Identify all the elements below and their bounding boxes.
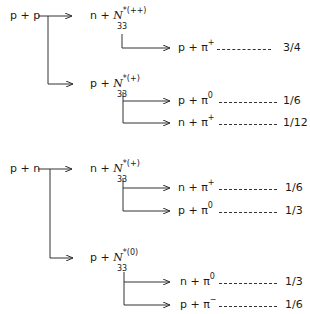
state-sup: *(+) <box>123 74 140 83</box>
pion-charge: 0 <box>208 91 213 100</box>
dashed-leader <box>217 49 271 50</box>
decay-products: p + π0 <box>178 95 213 108</box>
intermediate-state: n + N*(++) 33 <box>90 10 146 23</box>
pion-charge: + <box>208 38 215 47</box>
decay-products: p + π+ <box>178 42 215 55</box>
pion-charge: + <box>208 113 215 122</box>
state-prefix: p + <box>90 77 113 90</box>
decay-products: n + π+ <box>178 117 215 130</box>
decay-products: n + π+ <box>178 182 215 195</box>
products-text: p + π <box>178 41 208 54</box>
decay-products: n + π0 <box>180 276 215 289</box>
intermediate-state: p + N*(+) 33 <box>90 78 140 91</box>
pion-charge: + <box>208 178 215 187</box>
intermediate-state: n + N*(+) 33 <box>90 163 140 176</box>
state-sub: 33 <box>117 89 127 101</box>
products-text: p + π <box>178 204 208 217</box>
pion-charge: − <box>210 295 217 304</box>
branching-fraction: 1/6 <box>285 299 303 311</box>
products-text: p + π <box>180 298 210 311</box>
branching-fraction: 1/12 <box>283 117 308 129</box>
state-sup: *(+) <box>123 159 140 168</box>
products-text: n + π <box>178 181 208 194</box>
diagram-lines <box>0 0 310 314</box>
pion-charge: 0 <box>208 201 213 210</box>
branching-fraction: 1/6 <box>283 95 301 107</box>
dashed-leader <box>219 306 277 307</box>
pion-charge: 0 <box>210 272 215 281</box>
state-prefix: p + <box>90 251 113 264</box>
decay-products: p + π0 <box>178 205 213 218</box>
decay-products: p + π− <box>180 299 217 312</box>
branching-fraction: 1/3 <box>285 205 303 217</box>
state-prefix: n + <box>90 162 113 175</box>
reaction-label: p + n <box>10 163 40 175</box>
dashed-leader <box>219 124 277 125</box>
state-sup: *(0) <box>123 248 138 257</box>
intermediate-state: p + N*(0) 33 <box>90 252 138 265</box>
state-prefix: n + <box>90 9 113 22</box>
dashed-leader <box>219 189 277 190</box>
branching-fraction: 1/6 <box>285 182 303 194</box>
state-sup: *(++) <box>123 6 147 15</box>
dashed-leader <box>219 102 277 103</box>
products-text: n + π <box>178 116 208 129</box>
dashed-leader <box>219 283 277 284</box>
dashed-leader <box>219 212 277 213</box>
branching-fraction: 3/4 <box>283 42 301 54</box>
state-sub: 33 <box>117 21 127 33</box>
products-text: p + π <box>178 94 208 107</box>
products-text: n + π <box>180 275 210 288</box>
branching-fraction: 1/3 <box>285 276 303 288</box>
state-sub: 33 <box>117 263 127 275</box>
reaction-label: p + p <box>10 10 40 22</box>
state-sub: 33 <box>117 174 127 186</box>
